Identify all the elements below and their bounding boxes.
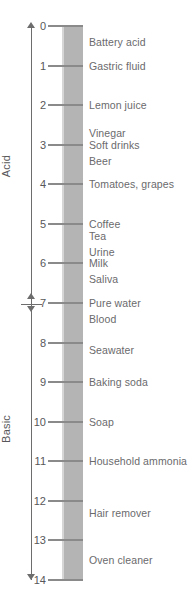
ph-tick-5 bbox=[48, 223, 83, 225]
ph-tick-label-8: 8 bbox=[32, 337, 46, 349]
substance-label: Battery acid bbox=[89, 36, 146, 48]
ph-tick-label-13: 13 bbox=[32, 534, 46, 546]
substance-label: Beer bbox=[89, 155, 112, 167]
substance-label: Urine bbox=[89, 246, 115, 258]
ph-tick-label-6: 6 bbox=[32, 257, 46, 269]
ph-tick-label-14: 14 bbox=[32, 574, 46, 586]
ph-tick-label-3: 3 bbox=[32, 139, 46, 151]
ph-tick-label-10: 10 bbox=[32, 416, 46, 428]
ph-tick-11 bbox=[48, 460, 83, 462]
substance-label: Milk bbox=[89, 257, 108, 269]
substance-label: Vinegar bbox=[89, 127, 126, 139]
ph-tick-label-12: 12 bbox=[32, 495, 46, 507]
substance-label: Seawater bbox=[89, 344, 134, 356]
region-label-basic: Basic bbox=[0, 415, 26, 443]
ph-tick-12 bbox=[48, 500, 83, 502]
ph-tick-4 bbox=[48, 183, 83, 185]
ph-tick-0 bbox=[48, 25, 83, 27]
ph-tick-label-4: 4 bbox=[32, 178, 46, 190]
substance-label: Tea bbox=[89, 230, 106, 242]
substance-label: Baking soda bbox=[89, 376, 148, 388]
ph-tick-2 bbox=[48, 104, 83, 106]
ph-tick-label-5: 5 bbox=[32, 218, 46, 230]
ph-tick-6 bbox=[48, 262, 83, 264]
ph-tick-9 bbox=[48, 381, 83, 383]
substance-label: Coffee bbox=[89, 218, 120, 230]
ph-tick-10 bbox=[48, 421, 83, 423]
ph-tick-8 bbox=[48, 342, 83, 344]
ph-tick-7 bbox=[48, 302, 83, 304]
ph-tick-3 bbox=[48, 144, 83, 146]
substance-label: Saliva bbox=[89, 273, 118, 285]
region-label-acid: Acid bbox=[0, 155, 26, 177]
ph-tick-1 bbox=[48, 65, 83, 67]
substance-label: Tomatoes, grapes bbox=[89, 178, 174, 190]
substance-label: Soft drinks bbox=[89, 139, 140, 151]
substance-label: Pure water bbox=[89, 297, 141, 309]
substance-label: Gastric fluid bbox=[89, 60, 146, 72]
ph-tick-label-2: 2 bbox=[32, 99, 46, 111]
substance-label: Hair remover bbox=[89, 507, 151, 519]
ph-tick-label-1: 1 bbox=[32, 60, 46, 72]
ph-tick-label-11: 11 bbox=[32, 455, 46, 467]
substance-label: Lemon juice bbox=[89, 99, 147, 111]
ph-tick-label-7: 7 bbox=[32, 297, 46, 309]
substance-label: Soap bbox=[89, 416, 114, 428]
substance-label: Blood bbox=[89, 313, 116, 325]
ph-tick-14 bbox=[48, 579, 83, 581]
ph-tick-label-9: 9 bbox=[32, 376, 46, 388]
substance-label: Household ammonia bbox=[89, 455, 187, 467]
ph-tick-label-0: 0 bbox=[32, 20, 46, 32]
substance-label: Oven cleaner bbox=[89, 554, 153, 566]
ph-scale-figure: Acid Basic 01234567891011121314 Battery … bbox=[0, 0, 190, 600]
ph-tick-13 bbox=[48, 539, 83, 541]
